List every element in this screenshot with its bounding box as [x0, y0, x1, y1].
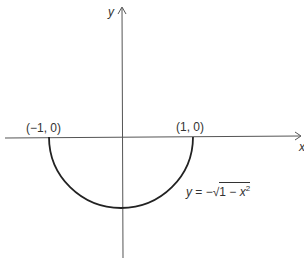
point-label-left: (−1, 0)	[26, 122, 61, 134]
radicand: 1 − x2	[219, 182, 250, 198]
point-label-right: (1, 0)	[176, 121, 204, 133]
radicand-text: 1 −	[219, 185, 239, 199]
equation-label: y = −√1 − x2	[186, 182, 250, 199]
x-axis-label: x	[299, 141, 304, 153]
radicand-exp: 2	[246, 184, 250, 193]
semicircle-curve	[49, 137, 193, 208]
equation-eq: = −	[192, 185, 213, 199]
y-axis	[122, 8, 123, 258]
sqrt-icon: √	[213, 185, 220, 199]
y-axis-label: y	[108, 6, 114, 18]
